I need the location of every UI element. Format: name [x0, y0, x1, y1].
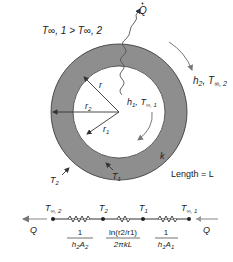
svg-text:1: 1	[164, 228, 169, 237]
temperature-condition-label: T∞, 1 > T∞, 2	[42, 25, 103, 36]
outer-convection-label: h2, T∞, 2	[193, 75, 227, 87]
node-Tinf1	[187, 217, 191, 221]
length-label: Length = L	[171, 169, 214, 179]
svg-text:h1A1: h1A1	[158, 240, 174, 250]
svg-text:ln(r2/r1): ln(r2/r1)	[109, 228, 137, 237]
T2-label: T2	[50, 175, 60, 186]
node-T1	[141, 217, 145, 221]
svg-text:T∞, 1 > T∞, 2: T∞, 1 > T∞, 2	[42, 25, 103, 36]
resistor-conduction	[117, 216, 130, 222]
heat-right-label: Q	[203, 225, 210, 235]
circuit-node-label: T2	[99, 203, 109, 214]
svg-text:2πkL: 2πkL	[113, 240, 132, 249]
heat-flow-label: Q	[139, 5, 147, 16]
dot-accent-icon	[142, 3, 144, 5]
circuit-node-label: T∞, 2	[45, 203, 62, 214]
circuit-node-label: T1	[139, 203, 148, 214]
node-Tinf2	[51, 217, 55, 221]
resistor-outer-convection	[68, 216, 90, 222]
cylinder-heat-transfer-diagram: T∞, 1 > T∞, 2 Q h2, T∞, 2 r r2 r1 h1, T∞…	[0, 0, 233, 262]
thermal-circuit: T∞, 2 T2 T1 T∞, 1 Q Q 1 h2A2 ln(r2/r1) 2…	[23, 203, 218, 250]
svg-text:h2A2: h2A2	[72, 240, 89, 250]
circuit-node-label: T∞, 1	[181, 203, 197, 214]
node-T2	[101, 217, 105, 221]
heat-left-label: Q	[30, 225, 37, 235]
resistor-inner-convection	[158, 216, 177, 222]
conductivity-label: k	[160, 151, 165, 161]
svg-text:1: 1	[78, 228, 83, 237]
